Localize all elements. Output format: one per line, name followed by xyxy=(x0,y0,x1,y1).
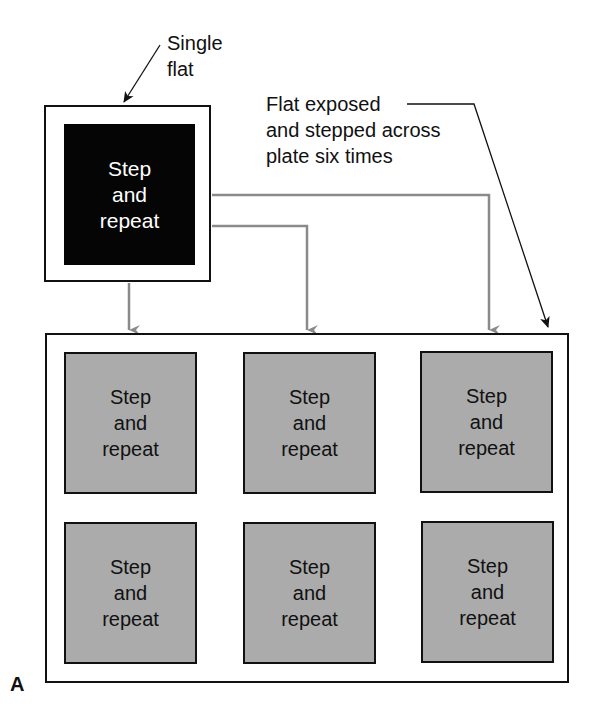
plate-tile: Step and repeat xyxy=(421,521,554,663)
plate-tile: Step and repeat xyxy=(243,522,376,664)
plate-tile: Step and repeat xyxy=(420,351,553,493)
callout-arrow-single-flat xyxy=(124,45,160,102)
annotation-label: Flat exposed and stepped across plate si… xyxy=(266,91,441,169)
plate-tile: Step and repeat xyxy=(64,352,197,494)
plate-tile: Step and repeat xyxy=(243,352,376,494)
flat-image: Step and repeat xyxy=(64,124,195,265)
plate-tile: Step and repeat xyxy=(64,522,197,664)
single-flat-label: Single flat xyxy=(167,30,223,82)
figure-label: A xyxy=(10,673,24,696)
